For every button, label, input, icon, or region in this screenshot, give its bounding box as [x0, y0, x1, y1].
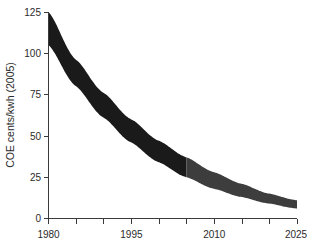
- x-tick-label-1980: 1980: [37, 229, 60, 240]
- y-axis-title: COE cents/kwh (2005): [4, 62, 16, 168]
- y-tick-label-0: 0: [35, 213, 41, 224]
- coe-experience-curve-chart: 125 100 75 50 25 0 1980 1995 2010 2025 C…: [0, 0, 315, 247]
- y-tick-label-75: 75: [30, 89, 42, 100]
- y-tick-label-125: 125: [24, 7, 41, 18]
- y-tick-label-25: 25: [30, 172, 42, 183]
- chart-container: 125 100 75 50 25 0 1980 1995 2010 2025 C…: [0, 0, 315, 247]
- chart-background: [0, 0, 315, 247]
- x-tick-label-2025: 2025: [285, 229, 308, 240]
- x-tick-label-2010: 2010: [203, 229, 226, 240]
- y-tick-label-100: 100: [24, 48, 41, 59]
- y-tick-label-50: 50: [30, 131, 42, 142]
- x-tick-label-1995: 1995: [120, 229, 143, 240]
